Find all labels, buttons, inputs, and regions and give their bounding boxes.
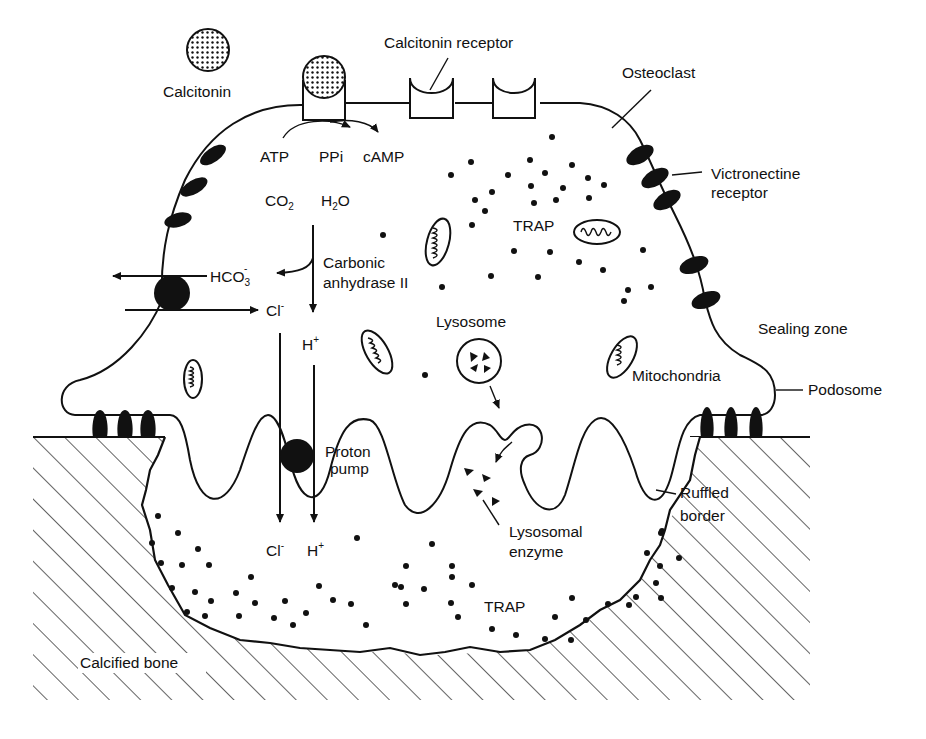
- calcitonin-receptor-1: [410, 78, 453, 118]
- chloride-bicarbonate-exchanger: [154, 275, 190, 311]
- victronectine-receptor-label-2: receptor: [711, 184, 768, 201]
- calcitonin-receptor-label: Calcitonin receptor: [384, 34, 513, 51]
- victronectine-receptors-left: [163, 141, 230, 231]
- proton-pump: [280, 439, 314, 473]
- trap-label-cytoplasm: TRAP: [513, 217, 554, 234]
- sealing-zone-label: Sealing zone: [758, 320, 848, 337]
- carbonic-anhydrase-label-1: Carbonic: [323, 254, 385, 271]
- bound-calcitonin-receptor: [303, 56, 345, 120]
- mitochondrion: [421, 216, 455, 268]
- mitochondrion: [184, 360, 202, 398]
- mitochondrion: [574, 220, 620, 244]
- osteoclast-diagram: Calcitonin Calcitonin receptor Osteoclas…: [0, 0, 926, 739]
- cl-top-label: Cl-: [266, 300, 284, 319]
- proton-pump-label-1: Proton: [325, 443, 371, 460]
- ppi-label: PPi: [319, 148, 343, 165]
- hco3-label: HCO3-: [210, 263, 250, 288]
- trap-granules-cytoplasm: [380, 134, 654, 378]
- calcitonin-molecule: [187, 29, 229, 71]
- calcified-bone-label: Calcified bone: [80, 654, 178, 671]
- atp-label: ATP: [260, 148, 289, 165]
- trap-label-lacuna: TRAP: [484, 598, 525, 615]
- calcitonin-label: Calcitonin: [163, 83, 231, 100]
- osteoclast-label: Osteoclast: [622, 64, 696, 81]
- carbonic-anhydrase-label-2: anhydrase II: [323, 274, 408, 291]
- camp-label: cAMP: [363, 148, 404, 165]
- lysosomal-enzyme-label-1: Lysosomal: [509, 523, 583, 540]
- mitochondrion: [355, 326, 398, 379]
- ruffled-border-label-2: border: [680, 507, 725, 524]
- calcitonin-receptor-2: [493, 78, 535, 118]
- victronectine-receptor-label-1: Victronectine: [711, 165, 800, 182]
- ruffled-border-label-1: Ruffled: [680, 484, 729, 501]
- podosomes-left: [92, 410, 155, 437]
- mitochondria-label: Mitochondria: [632, 367, 721, 384]
- proton-pump-label-2: pump: [330, 460, 369, 477]
- lysosome-label: Lysosome: [436, 313, 506, 330]
- co2-label: CO2: [265, 192, 294, 212]
- victronectine-receptors-right: [623, 141, 723, 313]
- podosomes-right: [700, 407, 762, 437]
- h2o-label: H2O: [321, 192, 350, 212]
- h-top-label: H+: [302, 334, 319, 353]
- podosome-label: Podosome: [808, 381, 882, 398]
- lysosome: [457, 339, 501, 383]
- lysosomal-enzyme-label-2: enzyme: [509, 543, 563, 560]
